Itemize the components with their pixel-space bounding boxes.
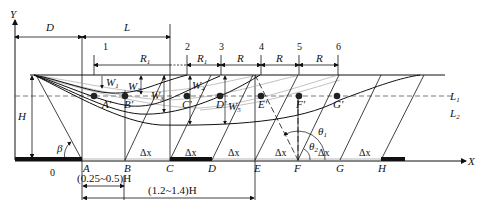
svg-text:B': B' [124,98,134,110]
long-dimension-label: (1.2~1.4)H [148,184,197,197]
subsidence-diagram: Y X L1 L2 D L 1 2 3 4 5 6 [0,0,481,211]
svg-text:A': A' [101,98,112,110]
svg-text:D': D' [215,98,227,110]
svg-text:R: R [315,52,323,64]
svg-text:4: 4 [259,41,264,52]
w1-label: W1 [106,76,119,90]
subsidence-curves [34,75,420,125]
svg-text:C: C [166,162,174,174]
r1-label-2: R1 [196,52,207,66]
svg-text:Δx: Δx [275,147,286,158]
w2-label: W2 [128,80,141,94]
y-axis-label: Y [10,8,18,20]
dim-d-label: D [45,21,54,33]
svg-text:Δx: Δx [140,147,151,158]
svg-text:1: 1 [103,41,108,52]
bottom-dimensions: (0.25~0.5)H (1.2~1.4)H [77,172,254,200]
h-label: H [17,110,27,122]
r1-label: R1 [139,52,150,66]
svg-text:G: G [336,162,344,174]
l2-label: L2 [449,107,460,121]
svg-text:G': G' [333,98,344,110]
svg-text:Δx: Δx [185,147,196,158]
svg-text:Δx: Δx [228,147,239,158]
svg-text:F: F [293,162,301,174]
svg-text:C': C' [182,98,192,110]
dim-l-label: L [123,21,130,33]
svg-text:6: 6 [336,41,341,52]
theta2-label: θ2 [309,140,318,154]
section-markers: 1 2 3 4 5 6 R1 R1 R R R [94,41,341,75]
seam-right [381,157,405,161]
short-dimension-label: (0.25~0.5)H [77,172,131,185]
svg-text:2: 2 [185,41,190,52]
w4-label: W4 [192,79,205,93]
svg-text:F': F' [295,98,306,110]
theta1-label: θ1 [318,125,327,139]
primed-labels: A' B' C' D' E' F' G' [101,98,344,110]
svg-text:5: 5 [297,41,302,52]
svg-text:0: 0 [50,167,55,178]
x-axis-label: X [467,155,476,167]
svg-text:H: H [377,162,387,174]
svg-text:R: R [236,52,244,64]
l1-label: L1 [449,90,460,104]
beta-label: β [56,142,63,154]
svg-text:3: 3 [219,41,224,52]
svg-text:Δx: Δx [318,147,329,158]
svg-text:Δx: Δx [359,147,370,158]
svg-text:E': E' [257,98,268,110]
svg-text:D: D [207,162,216,174]
y-axis: Y [10,8,18,160]
seam-left [15,157,82,161]
svg-text:R: R [275,52,283,64]
svg-text:E: E [253,162,261,174]
